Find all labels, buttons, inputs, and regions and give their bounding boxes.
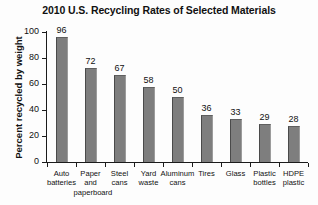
x-tick-mark <box>192 163 193 167</box>
y-tick-label: 80 <box>0 52 39 62</box>
x-tick-mark <box>279 163 280 167</box>
x-tick-mark <box>76 163 77 167</box>
bar <box>201 115 213 162</box>
bar-value-label: 50 <box>161 85 195 95</box>
x-tick-mark <box>221 163 222 167</box>
bar <box>172 97 184 162</box>
y-tick-label: 20 <box>0 130 39 140</box>
y-axis-title: Percent recycled by weight <box>13 28 24 168</box>
x-tick-mark <box>47 163 48 167</box>
bar <box>143 87 155 162</box>
recycling-rates-bar-chart: 2010 U.S. Recycling Rates of Selected Ma… <box>0 0 318 205</box>
chart-title: 2010 U.S. Recycling Rates of Selected Ma… <box>0 4 318 16</box>
bar <box>230 119 242 162</box>
x-tick-mark <box>163 163 164 167</box>
x-tick-mark <box>308 163 309 167</box>
bar <box>56 37 68 162</box>
category-label-line: cans <box>161 178 195 187</box>
bar-value-label: 28 <box>277 114 311 124</box>
y-tick-label: 0 <box>0 156 39 166</box>
y-tick-label: 40 <box>0 104 39 114</box>
x-tick-mark <box>134 163 135 167</box>
bar <box>288 126 300 162</box>
bar-value-label: 96 <box>45 25 79 35</box>
x-tick-mark <box>250 163 251 167</box>
x-tick-mark <box>105 163 106 167</box>
category-label: HDPEplastic <box>277 169 311 188</box>
plot-area <box>47 32 308 162</box>
bar <box>259 124 271 162</box>
category-label-line: paperboard <box>74 188 108 197</box>
bar-value-label: 67 <box>103 63 137 73</box>
bar <box>85 68 97 162</box>
category-label-line: plastic <box>277 178 311 187</box>
category-label-line: HDPE <box>277 169 311 178</box>
bar <box>114 75 126 162</box>
bar-value-label: 58 <box>132 75 166 85</box>
y-tick-label: 60 <box>0 78 39 88</box>
y-tick-label: 100 <box>0 26 39 36</box>
